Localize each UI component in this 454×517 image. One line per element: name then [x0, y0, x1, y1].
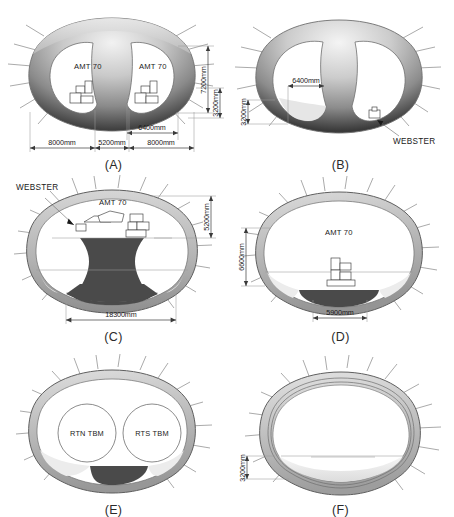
svg-text:3200mm: 3200mm	[238, 454, 247, 481]
figure-sheet: AMT 70 AMT 70	[0, 0, 454, 517]
panel-d-label: (D)	[227, 330, 454, 344]
svg-text:AMT 70: AMT 70	[99, 198, 127, 207]
svg-text:RTS TBM: RTS TBM	[135, 429, 169, 438]
svg-text:6600mm: 6600mm	[237, 243, 246, 270]
svg-text:3200mm: 3200mm	[239, 98, 248, 125]
svg-text:8000mm: 8000mm	[147, 138, 174, 147]
tbm-bore-right: RTS TBM	[123, 404, 181, 462]
panel-d: AMT 70 6600mm	[227, 172, 454, 344]
panel-e-label: (E)	[0, 503, 227, 517]
svg-text:7200mm: 7200mm	[199, 66, 208, 93]
panel-d-drawing: AMT 70 6600mm	[227, 172, 454, 344]
panel-a-label: (A)	[0, 158, 227, 172]
svg-text:5200mm: 5200mm	[202, 203, 211, 230]
svg-text:18300mm: 18300mm	[105, 310, 136, 319]
panel-a: AMT 70 AMT 70	[0, 0, 227, 172]
svg-text:5200mm: 5200mm	[98, 138, 125, 147]
tbm-bore-left: RTN TBM	[58, 404, 116, 462]
svg-text:WEBSTER: WEBSTER	[16, 183, 59, 192]
svg-text:WEBSTER: WEBSTER	[393, 137, 436, 146]
panel-b-label: (B)	[227, 158, 454, 172]
panel-b: 6400mm 3200mm WEBSTER	[227, 0, 454, 172]
svg-text:5900mm: 5900mm	[326, 308, 353, 317]
panel-f: 3200mm (F)	[227, 344, 454, 517]
svg-text:8000mm: 8000mm	[48, 138, 75, 147]
panel-a-drawing: AMT 70 AMT 70	[0, 0, 227, 172]
panel-f-label: (F)	[227, 503, 454, 517]
svg-text:3200mm: 3200mm	[211, 89, 220, 116]
panel-f-drawing: 3200mm	[227, 344, 454, 517]
svg-text:6400mm: 6400mm	[138, 123, 165, 132]
panel-b-drawing: 6400mm 3200mm WEBSTER	[227, 0, 454, 172]
svg-text:AMT 70: AMT 70	[325, 228, 353, 237]
panel-c-drawing: WEBSTER AMT 70 5200mm	[0, 172, 227, 344]
panel-c: WEBSTER AMT 70 5200mm	[0, 172, 227, 344]
svg-text:6400mm: 6400mm	[292, 76, 319, 85]
panel-e-drawing: RTN TBM RTS TBM	[0, 344, 227, 517]
svg-text:AMT 70: AMT 70	[74, 62, 102, 71]
svg-text:RTN TBM: RTN TBM	[70, 429, 104, 438]
panel-c-label: (C)	[0, 330, 227, 344]
panel-e: RTN TBM RTS TBM (E)	[0, 344, 227, 517]
svg-text:AMT 70: AMT 70	[139, 62, 167, 71]
